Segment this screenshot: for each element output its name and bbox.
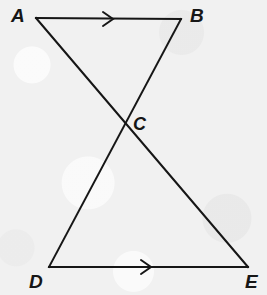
vertex-label-c: C bbox=[133, 115, 146, 133]
diagram-canvas bbox=[0, 0, 267, 295]
vertex-label-a: A bbox=[11, 6, 25, 25]
vertex-label-d: D bbox=[29, 272, 43, 291]
vertex-label-e: E bbox=[245, 272, 258, 291]
vertex-label-b: B bbox=[190, 6, 204, 25]
geometry-figure: A B C D E bbox=[0, 0, 267, 295]
segment-ab bbox=[36, 18, 181, 19]
